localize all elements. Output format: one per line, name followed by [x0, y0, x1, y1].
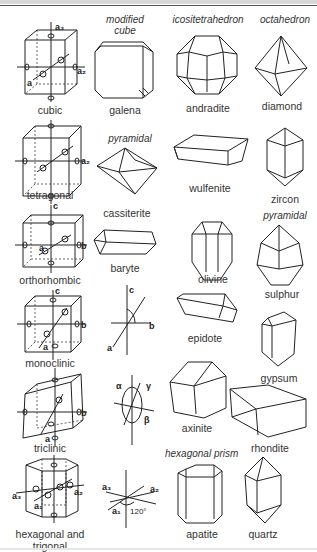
axis-label-a: a [27, 78, 33, 88]
apatite-crystal [176, 463, 224, 525]
mineral-label-apatite: apatite [175, 528, 229, 540]
system-label-orthorhombic: orthorhombic [10, 274, 90, 286]
axis-label-b: b [149, 321, 155, 331]
triclinic-axis-sketch: α γ β [110, 375, 160, 445]
system-label-triclinic: triclinic [20, 442, 80, 454]
mineral-label-olivine: olivine [186, 273, 240, 285]
mineral-label-galena: galena [95, 104, 155, 116]
heading-modified-cube: modified cube [100, 14, 150, 36]
triclinic-axes-diagram: b a [15, 368, 87, 446]
rhondite-crystal [228, 383, 308, 439]
axis-label-a2: a₂ [81, 156, 90, 166]
system-label-tetragonal: tetragonal [15, 189, 85, 201]
heading-octahedron: octahedron [255, 14, 315, 25]
andradite-crystal [175, 34, 239, 96]
axis-label-c: c [129, 285, 134, 295]
hexagonal-axis-sketch: a₃ a₂ a₁ 120° [100, 470, 160, 530]
angle-label-gamma: γ [146, 381, 151, 391]
mineral-label-diamond: diamond [252, 100, 312, 112]
zircon-crystal [265, 126, 305, 188]
axis-label-c: c [55, 286, 60, 296]
axinite-crystal [168, 360, 228, 420]
axis-label-c: c [53, 201, 58, 211]
monoclinic-axis-sketch: c b a [105, 285, 155, 355]
axis-label-a3: a₃ [12, 491, 21, 501]
axis-label-a: a [43, 342, 49, 352]
hexagonal-axes-diagram: a₃ a₂ a₁ [12, 455, 86, 523]
mineral-label-quartz: quartz [236, 528, 290, 540]
system-label-cubic: cubic [20, 104, 80, 116]
cassiterite-crystal [95, 146, 159, 196]
axis-label-b: b [81, 320, 87, 330]
heading-pyramidal-2: pyramidal [255, 210, 315, 221]
system-label-hexagonal-line2: trigonal [5, 540, 95, 552]
axis-label-a2: a₂ [150, 484, 159, 494]
galena-crystal [93, 38, 155, 100]
heading-pyramidal-1: pyramidal [100, 133, 160, 144]
baryte-crystal [92, 228, 158, 258]
angle-label-120: 120° [130, 507, 147, 516]
axis-label-a2: a₂ [74, 487, 83, 497]
quartz-crystal [243, 455, 283, 525]
top-text-fragment [0, 0, 317, 4]
axis-label-a: a [107, 343, 113, 353]
system-label-hexagonal-line1: hexagonal and [5, 528, 95, 540]
mineral-label-rhondite: rhondite [240, 442, 300, 454]
axis-label-a2: a₂ [77, 66, 86, 76]
mineral-label-epidote: epidote [178, 332, 232, 344]
mineral-label-sulphur: sulphur [255, 288, 309, 300]
axis-label-b: b [81, 408, 87, 418]
orthorhombic-axes-diagram: c b a [15, 205, 87, 273]
axis-label-a3: a₃ [55, 22, 64, 32]
diamond-crystal [253, 34, 309, 98]
monoclinic-axes-diagram: c b a [15, 290, 87, 360]
angle-label-beta: β [144, 415, 150, 425]
wulfenite-crystal [172, 133, 250, 167]
axis-label-b: b [81, 241, 87, 251]
sulphur-crystal [255, 223, 305, 289]
bottom-edge [0, 548, 317, 550]
mineral-label-zircon: zircon [258, 193, 312, 205]
mineral-label-cassiterite: cassiterite [95, 207, 159, 219]
axis-label-a1: a₁ [34, 501, 43, 511]
epidote-crystal [175, 292, 239, 324]
cubic-axes-diagram: a₃ a₂ a [15, 22, 85, 102]
axis-label-a1: a₁ [112, 506, 121, 516]
mineral-label-andradite: andradite [178, 102, 238, 114]
angle-label-alpha: α [116, 381, 122, 391]
axis-label-a3: a₃ [102, 482, 111, 492]
heading-hexagonal-prism: hexagonal prism [165, 448, 235, 459]
header-rule [0, 5, 317, 6]
mineral-label-wulfenite: wulfenite [180, 182, 240, 194]
heading-icositetrahedron: icositetrahedron [168, 14, 248, 25]
gypsum-crystal [258, 310, 298, 368]
mineral-label-baryte: baryte [98, 262, 152, 274]
mineral-label-axinite: axinite [170, 422, 224, 434]
